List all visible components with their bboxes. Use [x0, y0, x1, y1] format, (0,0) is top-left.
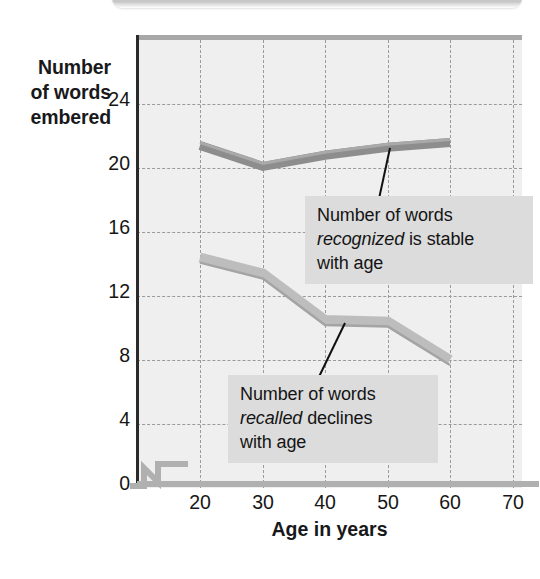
y-axis-line	[136, 35, 139, 485]
x-axis-title: Age in years	[137, 518, 522, 541]
annotation-recognized-line-1: Number of words	[317, 203, 521, 227]
annotation-recalled-line-2: recalled declines	[240, 406, 426, 430]
annotation-recalled-emphasis: recalled	[240, 408, 302, 428]
axis-break-zigzag-icon	[128, 456, 190, 494]
y-tick-label-8: 8	[88, 344, 130, 367]
annotation-recognized-line-2-rest: is stable	[404, 229, 474, 249]
x-tick-label-70: 70	[490, 491, 536, 514]
memory-line-chart: Number of words embered	[0, 0, 540, 579]
y-tick-label-16: 16	[88, 216, 130, 239]
x-tick-label-60: 60	[427, 491, 473, 514]
y-tick-label-0: 0	[88, 472, 130, 495]
x-axis-line	[137, 481, 539, 487]
y-tick-label-20: 20	[88, 152, 130, 175]
annotation-recalled-line-3: with age	[240, 430, 426, 454]
x-tick-label-30: 30	[240, 491, 286, 514]
annotation-recognized: Number of words recognized is stable wit…	[305, 196, 533, 284]
annotation-recognized-line-2: recognized is stable	[317, 227, 521, 251]
x-tick-label-20: 20	[177, 491, 223, 514]
annotation-recognized-line-3: with age	[317, 251, 521, 275]
annotation-recalled-line-2-rest: declines	[302, 408, 372, 428]
y-axis-title-line-1: Number	[0, 55, 111, 80]
annotation-recalled-line-1: Number of words	[240, 382, 426, 406]
y-tick-label-24: 24	[88, 88, 130, 111]
annotation-recognized-emphasis: recognized	[317, 229, 404, 249]
y-tick-label-12: 12	[88, 280, 130, 303]
x-tick-label-50: 50	[365, 491, 411, 514]
y-tick-label-4: 4	[88, 408, 130, 431]
annotation-recalled: Number of words recalled declines with a…	[228, 375, 438, 463]
x-tick-label-40: 40	[302, 491, 348, 514]
